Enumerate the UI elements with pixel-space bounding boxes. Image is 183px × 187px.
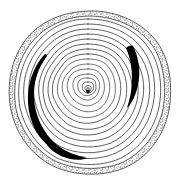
pith-center-dot [86,89,89,93]
growth-ring-8 [62,64,110,112]
tree-cross-section-illustration [0,0,183,187]
bark-layer [0,0,183,187]
bark-stipple-fill [0,0,183,187]
tree-cross-section-figure: Tree trunk cross section Black and white… [0,0,183,187]
growth-ring-9 [57,59,115,118]
growth-ring-11 [48,49,127,129]
scar-left-crescent [28,54,86,157]
